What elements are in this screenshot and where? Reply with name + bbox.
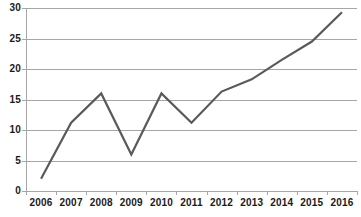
x-tick-2010 (146, 191, 147, 195)
x-tick-label-2014: 2014 (270, 196, 293, 210)
x-tick-2016 (327, 191, 328, 195)
x-tick-label-2007: 2007 (60, 196, 83, 210)
line-chart: 051015202530 200620072008200920102011201… (0, 0, 361, 217)
x-tick-label-2008: 2008 (90, 196, 113, 210)
x-tick-2007 (56, 191, 57, 195)
x-tick-2015 (297, 191, 298, 195)
x-tick-2012 (207, 191, 208, 195)
x-tick-label-2010: 2010 (150, 196, 173, 210)
x-tick-label-2013: 2013 (240, 196, 263, 210)
x-tick-2008 (86, 191, 87, 195)
x-tick-end (357, 191, 358, 195)
series-line-series-1 (41, 12, 342, 179)
x-axis-labels: 2006200720082009201020112012201320142015… (26, 196, 357, 214)
y-tick-30 (22, 8, 26, 9)
x-tick-label-2006: 2006 (30, 196, 53, 210)
x-tick-label-2015: 2015 (300, 196, 323, 210)
x-tick-2013 (237, 191, 238, 195)
x-tick-2006 (26, 191, 27, 195)
y-tick-10 (22, 130, 26, 131)
x-tick-2011 (176, 191, 177, 195)
y-tick-15 (22, 100, 26, 101)
y-tick-25 (22, 39, 26, 40)
x-tick-2014 (267, 191, 268, 195)
x-tick-label-2011: 2011 (180, 196, 203, 210)
x-tick-label-2016: 2016 (330, 196, 353, 210)
y-tick-5 (22, 161, 26, 162)
x-tick-label-2012: 2012 (210, 196, 233, 210)
x-tick-2009 (116, 191, 117, 195)
series-line-group (0, 0, 361, 217)
x-tick-label-2009: 2009 (120, 196, 143, 210)
y-tick-20 (22, 69, 26, 70)
